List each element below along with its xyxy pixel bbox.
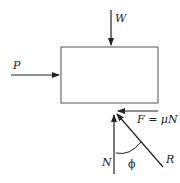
- weight-label: W: [115, 12, 128, 25]
- push-label: P: [12, 59, 21, 72]
- friction-label: F = μN: [136, 113, 178, 126]
- block: [61, 47, 158, 103]
- angle-arc: [116, 142, 141, 154]
- resultant-label: R: [165, 153, 174, 166]
- angle-label: ϕ: [128, 158, 136, 171]
- free-body-diagram: W P N F = μN R ϕ: [0, 0, 180, 183]
- normal-label: N: [101, 156, 112, 169]
